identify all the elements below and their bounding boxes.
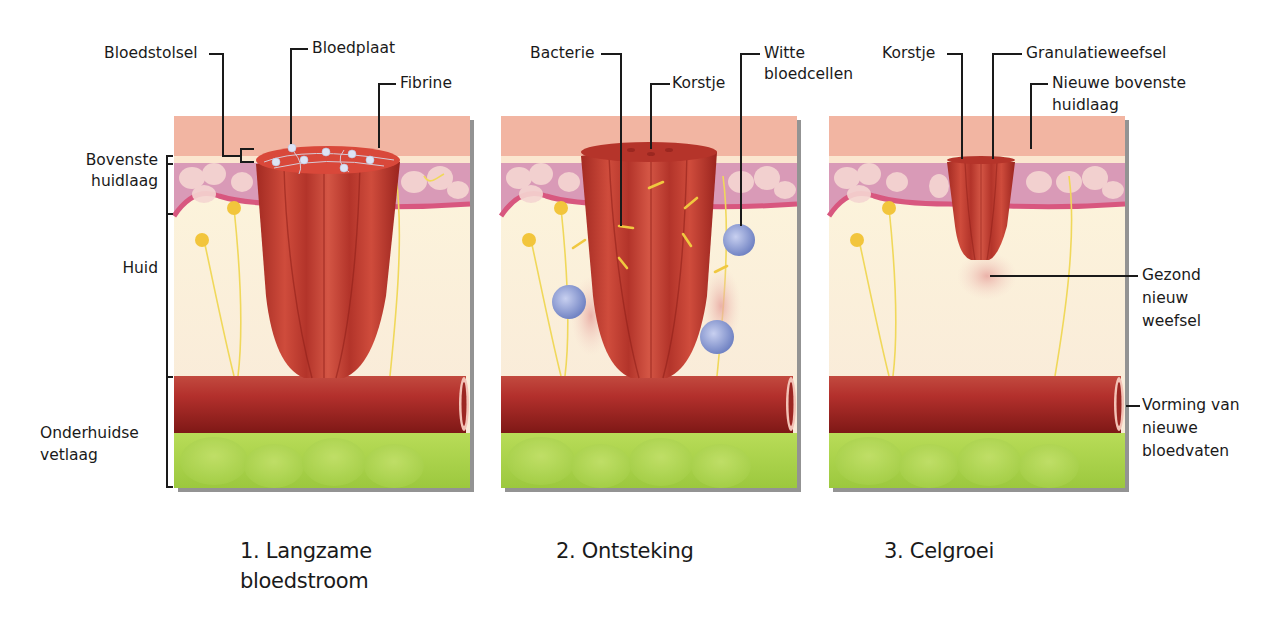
callout-vessels-line1: Vorming van — [1142, 395, 1239, 415]
callout-bacteria: Bacterie — [530, 43, 594, 63]
label-top-skin-line1: Bovenste — [78, 150, 158, 170]
callout-scab-3: Korstje — [882, 43, 935, 63]
wound-healing-diagram: Bovenste huidlaag Huid Onderhuidse vetla… — [0, 0, 1281, 635]
callout-healthy-line3: weefsel — [1142, 311, 1201, 331]
callout-granulation: Granulatieweefsel — [1026, 43, 1166, 63]
callout-white-cells-line1: Witte — [764, 43, 805, 63]
label-top-skin-line2: huidlaag — [78, 171, 158, 191]
callout-scab: Korstje — [672, 73, 725, 93]
caption-stage-1-line2: bloedstroom — [240, 567, 368, 595]
panel-3-illustration — [829, 116, 1129, 492]
callout-fibrin: Fibrine — [400, 73, 452, 93]
panel-1-illustration — [174, 116, 474, 492]
callout-new-top-line2: huidlaag — [1052, 95, 1119, 115]
caption-stage-2: 2. Ontsteking — [556, 537, 694, 565]
callout-vessels-line3: bloedvaten — [1142, 441, 1229, 461]
callout-blood-clot: Bloedstolsel — [104, 43, 198, 63]
panel-2-illustration — [501, 116, 801, 492]
caption-stage-1-line1: 1. Langzame — [240, 537, 372, 565]
caption-stage-3: 3. Celgroei — [884, 537, 994, 565]
callout-vessels-line2: nieuwe — [1142, 418, 1198, 438]
label-skin: Huid — [78, 258, 158, 278]
label-subcutaneous-line1: Onderhuidse — [40, 423, 139, 443]
blood-vessel — [174, 376, 466, 433]
callout-white-cells-line2: bloedcellen — [764, 64, 853, 84]
label-subcutaneous-line2: vetlaag — [40, 445, 98, 465]
callout-new-top-line1: Nieuwe bovenste — [1052, 73, 1186, 93]
callout-platelet: Bloedplaat — [312, 38, 395, 58]
callout-healthy-line2: nieuw — [1142, 288, 1188, 308]
callout-healthy-line1: Gezond — [1142, 265, 1201, 285]
